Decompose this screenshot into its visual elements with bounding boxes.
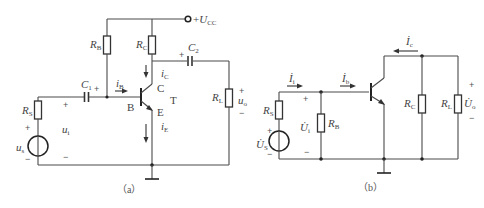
transistor-collector-lead: [141, 84, 152, 93]
rb-label: RB: [89, 38, 102, 52]
transistor-collector-lead: [371, 78, 384, 88]
ic-label: iC: [161, 67, 169, 81]
ie-label: iE: [161, 120, 168, 134]
ui-minus-sign: −: [304, 147, 309, 157]
resistor-rc: [419, 95, 426, 113]
ib-label: İb: [341, 72, 350, 86]
ib-arrow-head: [350, 84, 356, 89]
emitter-label: E: [157, 106, 164, 118]
ui-plus-sign: +: [303, 94, 308, 104]
resistor-rs: [276, 101, 283, 119]
uo-label: uo: [238, 94, 248, 108]
ii-label: İi: [288, 72, 295, 86]
rb-label: RB: [327, 117, 340, 131]
ib-label: iB: [116, 77, 124, 91]
vcc-terminal: [185, 16, 191, 22]
us-minus-sign: −: [25, 154, 30, 164]
vcc-label: +UCC: [193, 13, 217, 27]
resistor-rb: [318, 114, 325, 132]
ii-arrow-head: [297, 84, 303, 89]
rs-label: RS: [262, 104, 274, 118]
c2-plus-sign: +: [179, 50, 184, 60]
ui-minus-sign: −: [63, 152, 68, 162]
base-label: B: [127, 101, 134, 113]
c2-label: C2: [188, 41, 199, 55]
rs-label: RS: [21, 104, 33, 118]
ic-arrow-head: [144, 72, 149, 78]
ie-arrow-head: [144, 137, 149, 143]
ic-label: İc: [405, 35, 413, 49]
collector-label: C: [157, 82, 164, 94]
figure-b-small-signal-model: İi İb RS + U̇S − + U̇i − RB: [256, 35, 476, 193]
junction-dot: [319, 157, 323, 161]
junction-dot: [420, 157, 424, 161]
rl-label: RL: [211, 91, 223, 105]
ic-arrow-head: [393, 49, 399, 54]
rl-label: RL: [440, 97, 452, 111]
resistor-rs: [35, 101, 42, 119]
resistor-rl: [226, 89, 233, 107]
uo-minus-sign: −: [469, 113, 474, 123]
rc-label: RC: [403, 97, 416, 111]
resistor-rc: [149, 36, 156, 54]
caption-b: （b）: [358, 182, 383, 193]
circuit-diagram: +UCC RB RC C2 + RL + uo − C1 +: [0, 0, 484, 208]
ui-label: ui: [62, 123, 70, 137]
us-label: us: [16, 141, 25, 155]
c1-label: C1: [81, 78, 92, 92]
resistor-rb: [104, 36, 111, 54]
resistor-rl: [455, 95, 462, 113]
ui-plus-sign: +: [63, 100, 68, 110]
c1-plus-sign: +: [94, 84, 99, 94]
us-plus-sign: +: [25, 123, 30, 133]
us-plus-sign: +: [267, 126, 272, 136]
rc-label: RC: [135, 38, 148, 52]
caption-a: （a）: [117, 184, 141, 195]
us-minus-sign: −: [267, 149, 272, 159]
uo-label: U̇o: [464, 97, 476, 111]
uo-plus-sign: +: [469, 80, 474, 90]
transistor-label: T: [170, 94, 177, 106]
ui-label: U̇i: [300, 121, 310, 135]
figure-a-amplifier-circuit: +UCC RB RC C2 + RL + uo − C1 +: [16, 13, 248, 195]
uo-minus-sign: −: [239, 108, 244, 118]
junction-dot: [105, 95, 108, 98]
